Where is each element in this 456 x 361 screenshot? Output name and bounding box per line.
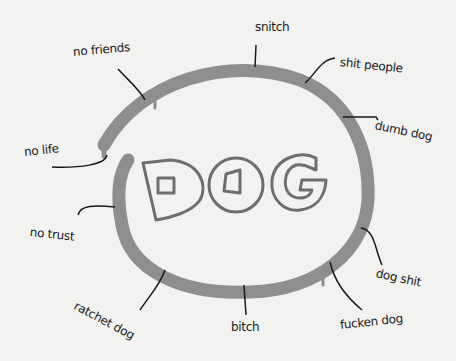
spray-ring <box>104 70 368 292</box>
diagram-canvas <box>0 0 456 361</box>
leader-lines <box>52 45 382 315</box>
label-bitch: bitch <box>231 320 259 334</box>
dog-letters <box>143 155 326 220</box>
label-snitch: snitch <box>255 20 289 34</box>
